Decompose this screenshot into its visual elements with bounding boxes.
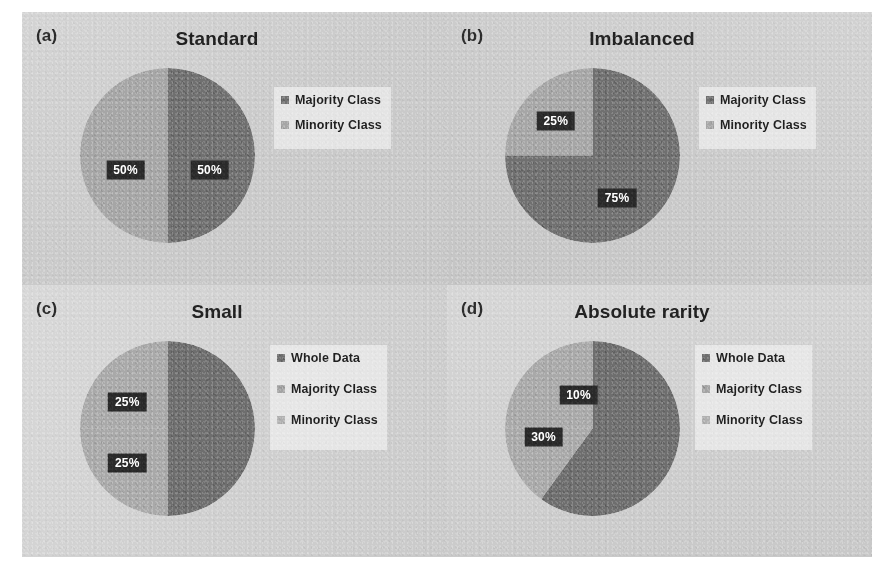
legend-swatch-icon [277, 416, 285, 424]
panel-title-b: Imbalanced [517, 28, 767, 50]
legend-swatch-icon [706, 96, 714, 104]
slice-label: 30% [524, 427, 563, 446]
legend-label: Whole Data [716, 351, 785, 365]
legend-item: Majority Class [702, 382, 803, 396]
legend-label: Whole Data [291, 351, 360, 365]
legend-swatch-icon [702, 354, 710, 362]
panel-b: (b) Imbalanced 25% 75% Majority Class Mi… [447, 12, 872, 285]
panel-title-c: Small [92, 301, 342, 323]
legend-label: Minority Class [716, 413, 803, 427]
legend-b: Majority Class Minority Class [699, 87, 816, 149]
slice-label: 25% [536, 111, 575, 130]
pie-slice-minority [80, 68, 168, 243]
pie-slice-minority [505, 341, 593, 429]
pie-slice-minority [80, 341, 168, 429]
panel-letter-b: (b) [461, 26, 483, 46]
pie-chart-d: 10% 30% [505, 341, 680, 516]
legend-swatch-icon [277, 354, 285, 362]
panel-title-a: Standard [92, 28, 342, 50]
pie-chart-a: 50% 50% [80, 68, 255, 243]
legend-swatch-icon [277, 385, 285, 393]
legend-label: Majority Class [295, 93, 381, 107]
panel-letter-d: (d) [461, 299, 483, 319]
pie-chart-c: 25% 25% [80, 341, 255, 516]
panel-letter-a: (a) [36, 26, 57, 46]
pie-chart-b: 25% 75% [505, 68, 680, 243]
legend-item: Minority Class [277, 413, 378, 427]
legend-label: Minority Class [291, 413, 378, 427]
slice-label: 50% [190, 160, 229, 179]
legend-d: Whole Data Majority Class Minority Class [695, 345, 812, 450]
slice-label: 75% [598, 188, 637, 207]
legend-label: Minority Class [295, 118, 382, 132]
legend-label: Majority Class [716, 382, 802, 396]
slice-label: 10% [559, 385, 598, 404]
pie-slice-majority [168, 68, 256, 243]
slice-label: 25% [108, 392, 147, 411]
legend-a: Majority Class Minority Class [274, 87, 391, 149]
pie-svg-a [80, 68, 255, 243]
slice-label: 50% [106, 160, 145, 179]
legend-item: Majority Class [281, 93, 382, 107]
legend-item: Majority Class [706, 93, 807, 107]
legend-label: Majority Class [291, 382, 377, 396]
legend-item: Minority Class [702, 413, 803, 427]
pie-svg-b [505, 68, 680, 243]
panel-title-d: Absolute rarity [517, 301, 767, 323]
panel-d: (d) Absolute rarity 10% 30% Whole Data M… [447, 285, 872, 558]
legend-item: Minority Class [706, 118, 807, 132]
legend-item: Majority Class [277, 382, 378, 396]
legend-item: Whole Data [702, 351, 803, 365]
legend-c: Whole Data Majority Class Minority Class [270, 345, 387, 450]
legend-label: Minority Class [720, 118, 807, 132]
panel-letter-c: (c) [36, 299, 57, 319]
legend-label: Majority Class [720, 93, 806, 107]
pie-svg-c [80, 341, 255, 516]
slice-label: 25% [108, 454, 147, 473]
panel-a: (a) Standard 50% 50% Majority Class Mino… [22, 12, 447, 285]
panel-c: (c) Small 25% 25% Whole Data Majority Cl… [22, 285, 447, 558]
pie-slice-whole-data [168, 341, 256, 516]
legend-swatch-icon [702, 385, 710, 393]
legend-swatch-icon [706, 121, 714, 129]
legend-item: Whole Data [277, 351, 378, 365]
legend-item: Minority Class [281, 118, 382, 132]
figure-canvas: (a) Standard 50% 50% Majority Class Mino… [22, 12, 872, 557]
legend-swatch-icon [281, 96, 289, 104]
legend-swatch-icon [702, 416, 710, 424]
legend-swatch-icon [281, 121, 289, 129]
